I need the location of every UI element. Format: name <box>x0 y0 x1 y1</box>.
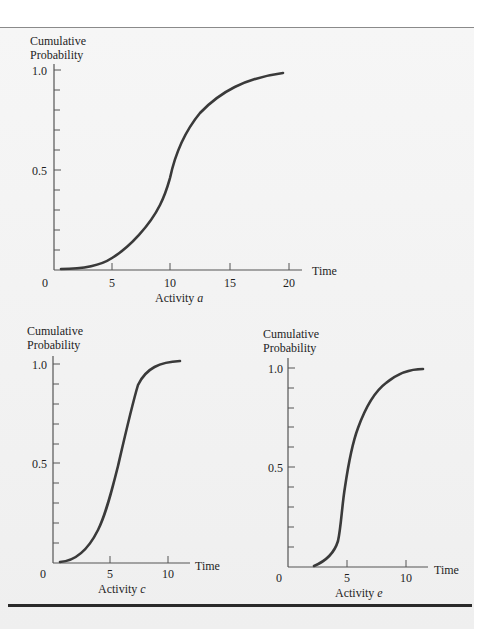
chart-caption: Activity c <box>98 582 146 596</box>
y-ticks <box>288 368 295 547</box>
x-tick-label-5: 5 <box>107 567 113 581</box>
x-ticks <box>110 556 168 563</box>
y-ticks <box>54 70 61 250</box>
origin-label: 0 <box>42 276 48 290</box>
cdf-curve-e <box>314 369 423 566</box>
y-tick-label-1: 1.0 <box>32 358 47 372</box>
y-tick-label-0-5: 0.5 <box>32 164 47 178</box>
x-axis-label: Time <box>195 559 220 573</box>
chart-activity-e: Cumulative Probability 1.0 0.5 0 5 10 Ti… <box>263 327 459 600</box>
y-axis-label-line1: Cumulative <box>30 34 86 48</box>
y-axis-label-line1: Cumulative <box>27 324 83 338</box>
y-tick-label-0-5: 0.5 <box>268 461 283 475</box>
x-tick-label-10: 10 <box>164 276 176 290</box>
y-axis-label-line2: Probability <box>30 48 83 62</box>
origin-label: 0 <box>40 567 46 581</box>
chart-activity-c: Cumulative Probability 1.0 0.5 0 5 10 Ti… <box>27 324 220 596</box>
cdf-curve-a <box>61 73 283 269</box>
x-ticks <box>347 560 406 567</box>
x-tick-label-5: 5 <box>109 276 115 290</box>
y-tick-label-1: 1.0 <box>32 64 47 78</box>
y-tick-label-0-5: 0.5 <box>32 457 47 471</box>
x-tick-label-15: 15 <box>224 276 236 290</box>
y-axis-label-line2: Probability <box>27 338 80 352</box>
y-ticks <box>53 364 60 543</box>
x-axis-label: Time <box>434 563 459 577</box>
x-ticks <box>112 263 289 270</box>
chart-caption: Activity e <box>335 586 383 600</box>
chart-activity-a: Cumulative Probability 1.0 0.5 0 5 10 15 <box>30 34 337 305</box>
x-tick-label-10: 10 <box>162 567 174 581</box>
y-axis-label-line2: Probability <box>263 341 316 355</box>
x-tick-label-10: 10 <box>400 571 412 585</box>
x-axis-label: Time <box>312 264 337 278</box>
y-tick-label-1: 1.0 <box>268 362 283 376</box>
chart-caption: Activity a <box>155 291 203 305</box>
origin-label: 0 <box>276 571 282 585</box>
x-tick-label-5: 5 <box>344 571 350 585</box>
cdf-curve-c <box>60 361 180 562</box>
charts-canvas: Cumulative Probability 1.0 0.5 0 5 10 15 <box>0 0 494 629</box>
y-axis-label-line1: Cumulative <box>263 327 319 341</box>
x-tick-label-20: 20 <box>283 276 295 290</box>
